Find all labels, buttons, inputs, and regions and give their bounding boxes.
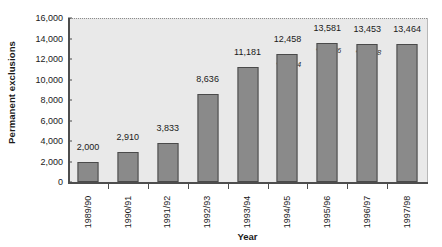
bar-group: 2,910 <box>108 18 148 182</box>
bar-value-label: 13,453 <box>353 24 381 34</box>
x-tick-label-text: 1993/94 <box>243 196 253 229</box>
x-tick-label-text: 1996/97 <box>362 196 372 229</box>
y-tick-label: 0 <box>58 177 63 187</box>
bar-group: 12,458 *11,084 <box>268 18 308 182</box>
x-tick-mark <box>387 184 388 189</box>
x-tick-label: 1993/94 <box>228 190 268 236</box>
x-tick-mark <box>228 184 229 189</box>
bar-value-label: 8,636 <box>196 74 219 84</box>
x-tick-label-text: 1995/96 <box>322 196 332 229</box>
y-axis-title-label: Permanent exclusions <box>6 41 17 144</box>
x-tick-label-text: 1989/90 <box>83 196 93 229</box>
bar-group: 13,581 *12,476 <box>307 18 347 182</box>
bar[interactable] <box>397 44 418 182</box>
x-tick-label: 1997/98 <box>387 190 427 236</box>
x-tick-label-text: 1997/98 <box>402 196 412 229</box>
bar[interactable] <box>357 44 378 182</box>
x-tick-mark <box>188 184 189 189</box>
bar[interactable] <box>277 54 298 182</box>
bar-value-label: 13,464 <box>393 24 421 34</box>
bar-group: 11,181 <box>228 18 268 182</box>
bar[interactable] <box>117 152 138 182</box>
x-tick-mark <box>108 184 109 189</box>
x-tick-mark <box>148 184 149 189</box>
permanent-exclusions-bar-chart: Permanent exclusions 16,000 14,000 12,00… <box>0 0 442 247</box>
y-tick-label: 6,000 <box>40 116 63 126</box>
x-tick-label-text: 1994/95 <box>282 196 292 229</box>
y-tick-label: 8,000 <box>40 95 63 105</box>
bars-layer: 2,000 2,910 3,833 8,636 11,181 12,458 *1… <box>68 18 427 182</box>
bar-value-label: 3,833 <box>156 123 179 133</box>
bar-value-label: 2,910 <box>117 132 140 142</box>
bar[interactable] <box>317 43 338 182</box>
x-tick-label: 1994/95 <box>268 190 308 236</box>
x-tick-label: 1995/96 <box>307 190 347 236</box>
x-tick-mark <box>347 184 348 189</box>
x-axis-title: Year <box>68 231 427 242</box>
y-axis-title: Permanent exclusions <box>0 0 22 185</box>
x-tick-label: 1992/93 <box>188 190 228 236</box>
x-tick-label: 1989/90 <box>68 190 108 236</box>
x-tick-label-text: 1990/91 <box>123 196 133 229</box>
x-tick-label: 1991/92 <box>148 190 188 236</box>
y-tick-label: 10,000 <box>35 75 63 85</box>
x-tick-label: 1990/91 <box>108 190 148 236</box>
bar-value-label: 12,458 <box>274 34 302 44</box>
x-tick-mark <box>268 184 269 189</box>
bar-group: 2,000 <box>68 18 108 182</box>
x-tick-label-text: 1991/92 <box>163 196 173 229</box>
bar[interactable] <box>77 162 98 183</box>
bar-value-label: 13,581 <box>314 23 342 33</box>
y-axis-tick-labels: 16,000 14,000 12,000 10,000 8,000 6,000 … <box>22 0 66 185</box>
y-tick-label: 2,000 <box>40 157 63 167</box>
bar-value-label: 2,000 <box>77 142 100 152</box>
bar-value-label: 11,181 <box>234 47 261 57</box>
bar-group: 8,636 <box>188 18 228 182</box>
y-tick-label: 16,000 <box>35 13 63 23</box>
bar-group: 13,453 *12,668 <box>347 18 387 182</box>
bar[interactable] <box>237 67 258 182</box>
x-tick-label-text: 1992/93 <box>203 196 213 229</box>
bar[interactable] <box>197 94 218 183</box>
y-tick-label: 14,000 <box>35 34 63 44</box>
bar-group: 13,464 <box>387 18 427 182</box>
bar-group: 3,833 <box>148 18 188 182</box>
bar[interactable] <box>157 143 178 182</box>
x-tick-label: 1996/97 <box>347 190 387 236</box>
y-tick-label: 12,000 <box>35 54 63 64</box>
x-tick-mark <box>307 184 308 189</box>
y-tick-label: 4,000 <box>40 136 63 146</box>
